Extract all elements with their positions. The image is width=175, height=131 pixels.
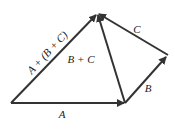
vector-diagram: ABCB + CA + (B + C) (0, 0, 175, 131)
vector-b-arrow (125, 57, 166, 103)
vector-a-label: A (58, 108, 66, 120)
vector-b-label: B (145, 82, 152, 94)
vector-c-label: C (133, 23, 141, 35)
vector-abc-label: A + (B + C) (24, 28, 71, 77)
vector-bc-label: B + C (68, 53, 96, 65)
